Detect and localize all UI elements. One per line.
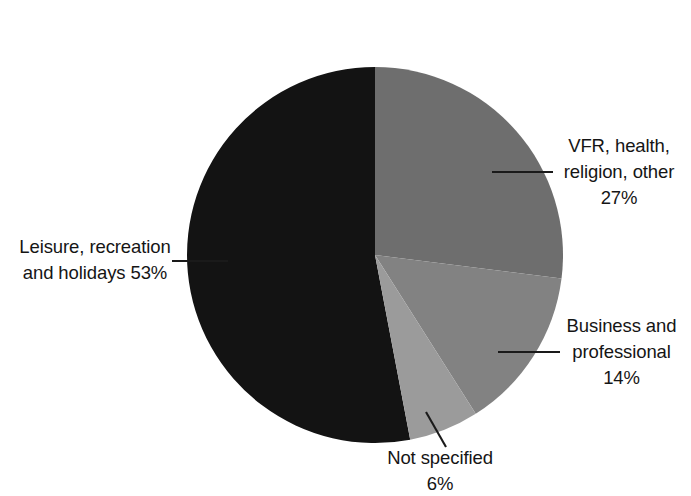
pie-label-not-specified: Not specified 6%: [350, 445, 530, 496]
pie-chart-page: VFR, health, religion, other 27% Busines…: [0, 0, 691, 496]
pie-label-leisure: Leisure, recreation and holidays 53%: [2, 234, 188, 286]
pie-label-vfr: VFR, health, religion, other 27%: [547, 133, 691, 211]
pie-label-business: Business and professional 14%: [552, 313, 691, 391]
pie-slices: [187, 67, 563, 443]
